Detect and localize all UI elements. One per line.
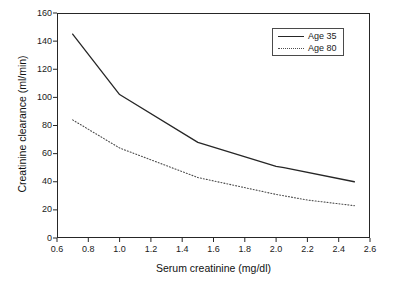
- legend-line-sample-dotted-icon: [278, 44, 304, 54]
- x-tick-label: 2.6: [355, 245, 385, 254]
- y-tick-label: 0: [26, 234, 52, 243]
- x-tick-label: 0.8: [73, 245, 103, 254]
- legend-label: Age 80: [308, 44, 337, 53]
- x-tick-label: 1.4: [167, 245, 197, 254]
- legend-item-age-80: Age 80: [273, 42, 343, 55]
- x-tick-label: 2.0: [261, 245, 291, 254]
- legend-label: Age 35: [308, 32, 337, 41]
- y-tick-label: 20: [26, 205, 52, 214]
- x-tick-label: 2.2: [292, 245, 322, 254]
- y-tick-label: 160: [26, 9, 52, 18]
- x-axis-tick-labels: 0.60.81.01.21.41.61.82.02.22.42.6: [0, 245, 393, 259]
- x-axis-title: Serum creatinine (mg/dl): [57, 262, 370, 274]
- chart-legend: Age 35 Age 80: [272, 28, 344, 56]
- legend-line-sample-solid-icon: [278, 32, 304, 42]
- x-tick-label: 1.6: [199, 245, 229, 254]
- y-tick-label: 60: [26, 149, 52, 158]
- y-tick-label: 140: [26, 37, 52, 46]
- y-axis-title: Creatinine clearance (ml/min): [16, 9, 28, 239]
- x-tick-label: 1.2: [136, 245, 166, 254]
- y-tick-label: 120: [26, 65, 52, 74]
- y-tick-label: 40: [26, 177, 52, 186]
- x-tick-label: 1.0: [105, 245, 135, 254]
- x-tick-label: 1.8: [230, 245, 260, 254]
- chart-figure: 020406080100120140160 0.60.81.01.21.41.6…: [0, 0, 393, 287]
- y-tick-label: 80: [26, 121, 52, 130]
- x-axis-tick-marks: [57, 238, 370, 242]
- x-tick-label: 2.4: [324, 245, 354, 254]
- y-tick-label: 100: [26, 93, 52, 102]
- x-tick-label: 0.6: [42, 245, 72, 254]
